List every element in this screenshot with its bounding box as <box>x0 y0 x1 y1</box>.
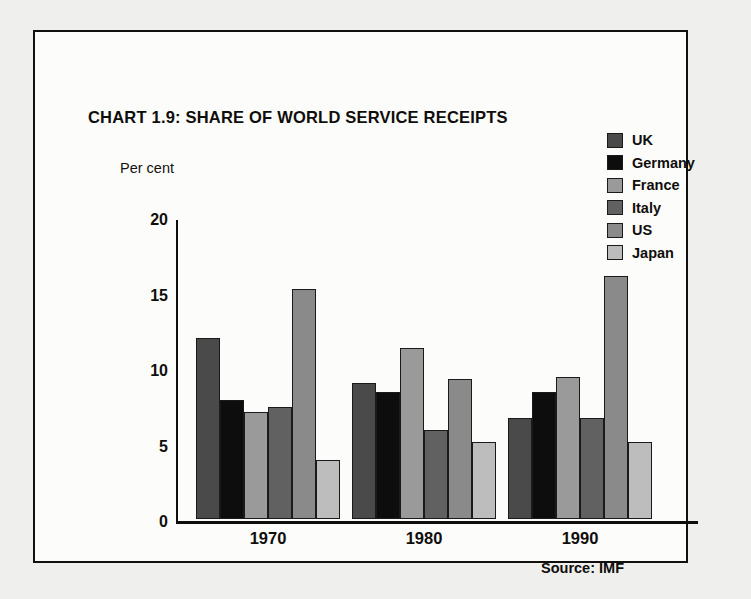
bar-us <box>448 379 472 519</box>
bar-uk <box>352 383 376 519</box>
source-note: Source: IMF <box>541 560 624 576</box>
legend-swatch-icon <box>607 200 623 215</box>
x-tick-label: 1990 <box>508 529 652 548</box>
bar-uk <box>196 338 220 519</box>
bar-group: 1980 <box>352 217 496 519</box>
screenshot-page: CHART 1.9: SHARE OF WORLD SERVICE RECEIP… <box>0 0 751 599</box>
y-axis-ticks: 05101520 <box>124 220 168 522</box>
bars <box>508 217 652 519</box>
bar-japan <box>472 442 496 519</box>
chart-title: CHART 1.9: SHARE OF WORLD SERVICE RECEIP… <box>88 108 508 127</box>
chart-panel: CHART 1.9: SHARE OF WORLD SERVICE RECEIP… <box>33 30 688 563</box>
legend-label: Germany <box>632 155 695 171</box>
y-tick-label: 0 <box>128 513 168 531</box>
legend-label: Italy <box>632 200 661 216</box>
bar-italy <box>424 430 448 519</box>
y-tick-label: 5 <box>128 438 168 456</box>
y-axis-unit-label: Per cent <box>120 160 174 176</box>
legend-item-france: France <box>607 175 695 195</box>
legend-item-germany: Germany <box>607 153 695 173</box>
bar-uk <box>508 418 532 519</box>
bar-france <box>244 412 268 519</box>
y-tick-label: 10 <box>128 362 168 380</box>
bar-group: 1970 <box>196 217 340 519</box>
bar-us <box>292 289 316 519</box>
bar-japan <box>628 442 652 519</box>
legend-label: France <box>632 177 680 193</box>
x-tick-label: 1980 <box>352 529 496 548</box>
bar-us <box>604 276 628 519</box>
y-tick-label: 20 <box>128 211 168 229</box>
bars <box>196 217 340 519</box>
bar-germany <box>220 400 244 519</box>
legend-swatch-icon <box>607 155 623 170</box>
bar-italy <box>268 407 292 519</box>
bar-germany <box>532 392 556 519</box>
legend-swatch-icon <box>607 178 623 193</box>
plot-area: 05101520 197019801990 <box>176 220 698 522</box>
bar-japan <box>316 460 340 519</box>
legend-swatch-icon <box>607 133 623 148</box>
bar-group: 1990 <box>508 217 652 519</box>
bar-france <box>400 348 424 519</box>
legend-item-italy: Italy <box>607 198 695 218</box>
legend-item-uk: UK <box>607 130 695 150</box>
bar-germany <box>376 392 400 519</box>
x-axis-line <box>176 521 698 524</box>
legend-label: UK <box>632 132 653 148</box>
y-axis-line <box>176 220 178 523</box>
y-tick-label: 15 <box>128 287 168 305</box>
x-tick-label: 1970 <box>196 529 340 548</box>
bar-italy <box>580 418 604 519</box>
bar-france <box>556 377 580 519</box>
bars <box>352 217 496 519</box>
